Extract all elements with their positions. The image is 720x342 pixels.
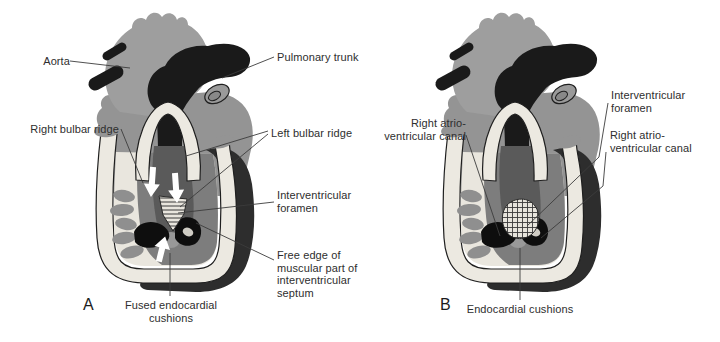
label-pulmonary-trunk: Pulmonary trunk bbox=[277, 51, 377, 64]
label-left-bulbar-ridge: Left bulbar ridge bbox=[271, 127, 371, 140]
panel-letter-b: B bbox=[440, 296, 451, 314]
label-endocardial-cushions: Endocardial cushions bbox=[455, 303, 585, 316]
label-fused-endocardial-cushions: Fused endocardial cushions bbox=[111, 299, 231, 324]
label-right-av-canal-right: Right atrio-ventricular canal bbox=[610, 129, 700, 154]
panel-b-overlay bbox=[502, 199, 538, 238]
endocardial-cushion-hatch-b bbox=[502, 199, 538, 238]
label-right-bulbar-ridge: Right bulbar ridge bbox=[19, 123, 119, 136]
panel-letter-a: A bbox=[83, 296, 94, 314]
heart-illustration-a bbox=[93, 13, 254, 292]
label-free-edge: Free edge of muscular part of interventr… bbox=[277, 249, 372, 300]
label-interventricular-foramen-a: Interventricular foramen bbox=[277, 189, 372, 214]
heart-illustration-b bbox=[440, 13, 601, 292]
label-interventricular-foramen-b: Interventricular foramen bbox=[611, 89, 706, 114]
label-right-av-canal-left: Right atrio-ventricular canal bbox=[376, 117, 466, 142]
figure: Aorta Pulmonary trunk Right bulbar ridge… bbox=[0, 0, 720, 342]
label-aorta: Aorta bbox=[0, 55, 70, 68]
